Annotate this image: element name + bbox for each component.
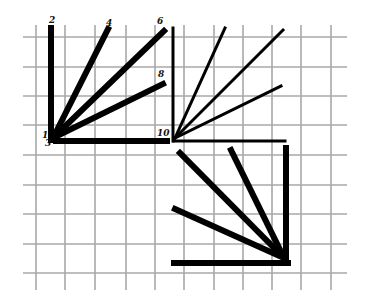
stroke-line <box>175 86 281 138</box>
stroke-number-label: 6 <box>157 16 164 26</box>
stroke-number-label: 8 <box>158 69 165 79</box>
stroke-number-label: 2 <box>48 15 55 25</box>
stroke-line <box>175 28 225 138</box>
stroke-line <box>175 209 284 258</box>
stroke-number-label: 3 <box>45 138 51 148</box>
stroke-line <box>175 30 283 138</box>
stroke-number-label: 4 <box>106 18 112 28</box>
stroke-diagram: 24681310 <box>0 0 372 297</box>
fan-top-right-thin <box>173 28 285 141</box>
stroke-figures <box>51 28 288 263</box>
stroke-number-label: 10 <box>157 128 170 138</box>
stroke-line <box>53 31 164 138</box>
fan-top-left-thick <box>51 28 167 141</box>
stroke-line <box>231 150 284 258</box>
fan-bottom-right-thick <box>174 148 288 263</box>
stroke-line <box>180 153 284 258</box>
